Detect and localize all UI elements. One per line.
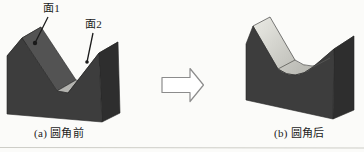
face2-leader-dot: [85, 60, 89, 64]
vblock-after-right-side-face: [333, 36, 354, 119]
fillet-diagram: 面1 面2 (a) 圆角前 (b) 圆角后: [0, 0, 364, 152]
caption-before-fillet: (a) 圆角前: [34, 127, 84, 140]
face1-label: 面1: [43, 2, 60, 15]
page-rule-line: [0, 148, 364, 149]
face2-label: 面2: [85, 18, 102, 31]
vblock-before-right-side-face: [99, 42, 120, 122]
v-block-after: [246, 17, 354, 119]
caption-after-fillet: (b) 圆角后: [274, 127, 325, 140]
v-block-before: [7, 27, 120, 122]
face2-leader-line: [87, 33, 93, 62]
face1-leader-dot: [33, 41, 37, 45]
transform-arrow-icon: [162, 69, 204, 102]
